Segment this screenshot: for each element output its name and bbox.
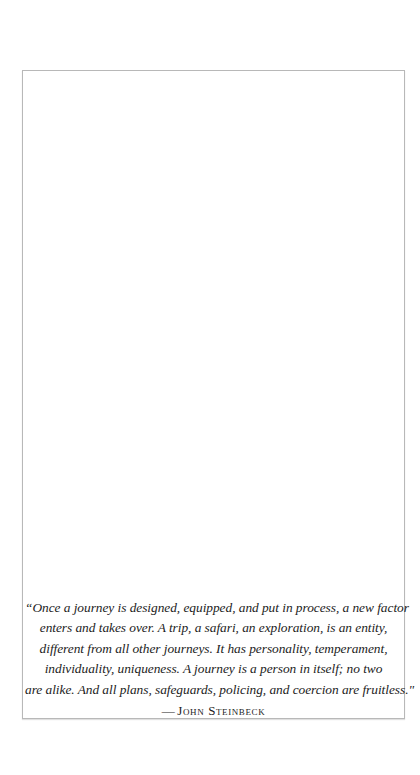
quote-block: “Once a journey is designed, equipped, a… [23,598,404,721]
quote-attribution: —John Steinbeck [23,701,404,721]
quote-line-4: individuality, uniqueness. A journey is … [25,659,402,679]
quote-line-1: “Once a journey is designed, equipped, a… [25,598,402,618]
attribution-dash: — [162,703,176,718]
quote-line-3: different from all other journeys. It ha… [25,639,402,659]
page-frame: “Once a journey is designed, equipped, a… [22,70,405,719]
attribution-author: John Steinbeck [177,703,265,718]
quote-text: “Once a journey is designed, equipped, a… [23,598,404,700]
quote-line-5: are alike. And all plans, safeguards, po… [25,680,402,700]
quote-line-2: enters and takes over. A trip, a safari,… [25,618,402,638]
